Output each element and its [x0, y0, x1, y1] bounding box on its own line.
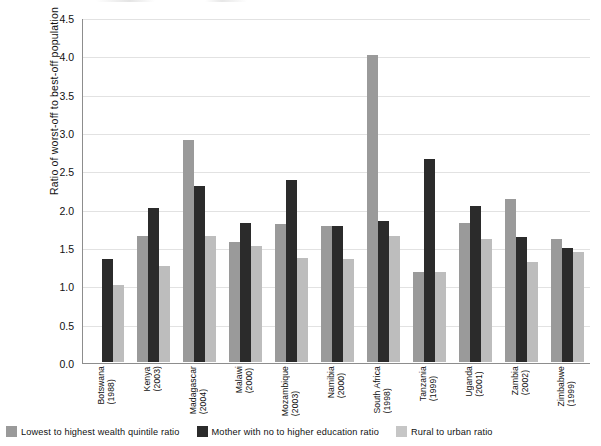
- x-axis-tick-label-line: Uganda: [465, 366, 474, 397]
- bar[interactable]: [159, 266, 170, 362]
- bar-group: [222, 19, 268, 362]
- bar-groups: [84, 19, 590, 362]
- x-axis-tick-label-line: Tanzania: [419, 366, 428, 401]
- bar-group: [406, 19, 452, 362]
- chart-figure: Ratio of worst-off to best-off populatio…: [0, 0, 601, 446]
- bar[interactable]: [389, 236, 400, 362]
- bar[interactable]: [205, 236, 216, 362]
- legend-swatch-icon: [6, 426, 17, 437]
- x-axis-tick-label-line: Kenya: [143, 366, 152, 391]
- y-axis-tick-label: 0.5: [28, 320, 74, 332]
- legend-label: Rural to urban ratio: [411, 427, 493, 437]
- x-axis-tick-label-line: Malawi: [235, 366, 244, 393]
- bar[interactable]: [240, 223, 251, 362]
- bar[interactable]: [113, 285, 124, 362]
- bar[interactable]: [148, 208, 159, 362]
- bar[interactable]: [297, 258, 308, 362]
- x-axis-tick-label-line: (1999): [429, 366, 438, 401]
- bar[interactable]: [562, 248, 573, 362]
- x-axis-tick-label: Zambia(2002): [498, 366, 544, 418]
- x-axis-tick-label: Uganda(2001): [452, 366, 498, 418]
- bar[interactable]: [343, 259, 354, 363]
- bar-group: [176, 19, 222, 362]
- x-axis-tick-label-line: (2001): [475, 366, 484, 397]
- legend-label: Lowest to highest wealth quintile ratio: [21, 427, 180, 437]
- x-axis-tick-label-line: (1988): [107, 366, 116, 405]
- bar[interactable]: [275, 224, 286, 362]
- bar[interactable]: [481, 239, 492, 362]
- x-axis-tick-labels: Botswana(1988)Kenya(2003)Madagascar(2004…: [83, 366, 590, 418]
- legend-swatch-icon: [396, 426, 407, 437]
- x-axis-tick-label: Namibia(2000): [313, 366, 359, 418]
- legend-swatch-icon: [197, 426, 208, 437]
- legend-item[interactable]: Lowest to highest wealth quintile ratio: [6, 426, 180, 437]
- bar-group: [544, 19, 590, 362]
- x-axis-tick-label: South Africa(1998): [360, 366, 406, 418]
- bar[interactable]: [102, 259, 113, 363]
- x-axis-tick-label: Kenya(2003): [129, 366, 175, 418]
- y-axis-tick-label: 1.0: [28, 281, 74, 293]
- bar-group: [314, 19, 360, 362]
- bar[interactable]: [321, 226, 332, 362]
- x-axis-tick-label: Zimbabwe(1999): [544, 366, 590, 418]
- bar[interactable]: [459, 223, 470, 362]
- y-axis-tick-label: 1.5: [28, 243, 74, 255]
- bar[interactable]: [435, 272, 446, 362]
- cropped-header-remnant: [96, 0, 516, 2]
- x-axis-tick-label-line: (1999): [567, 366, 576, 406]
- legend-item[interactable]: Mother with no to higher education ratio: [197, 426, 379, 437]
- x-axis-tick-label-line: (2003): [153, 366, 162, 391]
- x-axis-tick-label: Madagascar(2004): [175, 366, 221, 418]
- x-axis-tick-label-line: (2002): [521, 366, 530, 395]
- x-axis-tick-label-line: (2004): [199, 366, 208, 414]
- bar-group: [498, 19, 544, 362]
- x-axis-tick-label: Malawi(2000): [221, 366, 267, 418]
- legend-item[interactable]: Rural to urban ratio: [396, 426, 493, 437]
- bar[interactable]: [424, 159, 435, 362]
- chart-legend: Lowest to highest wealth quintile ratioM…: [6, 426, 510, 437]
- x-axis-tick-label-line: Madagascar: [189, 366, 198, 414]
- bar-group: [452, 19, 498, 362]
- bar[interactable]: [367, 55, 378, 362]
- bar[interactable]: [137, 236, 148, 362]
- bar[interactable]: [286, 180, 297, 362]
- bar[interactable]: [229, 242, 240, 362]
- bar[interactable]: [505, 199, 516, 362]
- bar[interactable]: [470, 206, 481, 362]
- bar[interactable]: [527, 262, 538, 362]
- bar[interactable]: [413, 272, 424, 362]
- x-axis-tick-label-line: Namibia: [327, 366, 336, 398]
- x-axis-tick-label: Botswana(1988): [83, 366, 129, 418]
- bar[interactable]: [194, 186, 205, 362]
- plot-area: [82, 19, 590, 364]
- bar-group: [130, 19, 176, 362]
- x-axis-tick-label-line: (1998): [383, 366, 392, 414]
- y-axis-title: Ratio of worst-off to best-off populatio…: [48, 0, 60, 241]
- x-axis-tick-label-line: (2003): [291, 366, 300, 416]
- bar[interactable]: [551, 239, 562, 362]
- bar[interactable]: [573, 252, 584, 362]
- bar-group: [360, 19, 406, 362]
- bar-group: [268, 19, 314, 362]
- legend-label: Mother with no to higher education ratio: [212, 427, 379, 437]
- x-axis-tick-label: Mozambique(2003): [267, 366, 313, 418]
- x-axis-tick-label-line: Mozambique: [281, 366, 290, 416]
- x-axis-tick-label-line: (2000): [245, 366, 254, 393]
- bar[interactable]: [378, 221, 389, 362]
- bar[interactable]: [251, 246, 262, 362]
- bar[interactable]: [332, 226, 343, 362]
- x-axis-tick-label: Tanzania(1999): [406, 366, 452, 418]
- bar[interactable]: [183, 140, 194, 362]
- bar[interactable]: [516, 237, 527, 362]
- y-axis-tick-label: 0.0: [28, 358, 74, 370]
- x-axis-tick-label-line: South Africa: [373, 366, 382, 414]
- bar-group: [84, 19, 130, 362]
- x-axis-tick-label-line: Botswana: [97, 366, 106, 405]
- x-axis-tick-label-line: (2000): [337, 366, 346, 398]
